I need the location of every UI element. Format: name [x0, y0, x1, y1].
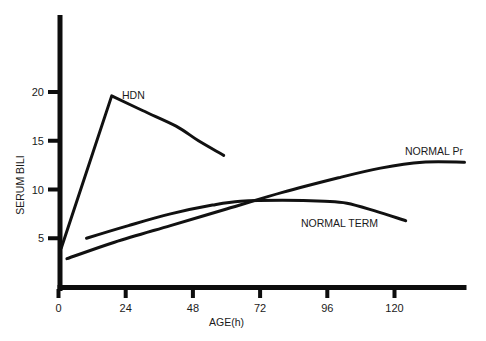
- x-tick-label: 96: [321, 302, 333, 314]
- y-axis-title: SERUM BILI: [14, 155, 26, 215]
- x-ticks: 024487296120: [55, 289, 403, 314]
- x-tick-label: 0: [55, 302, 61, 314]
- x-axis-title: AGE(h): [209, 316, 244, 328]
- x-tick-mark: [191, 289, 195, 298]
- x-tick-mark: [124, 289, 128, 298]
- y-tick-mark: [48, 188, 59, 192]
- x-tick-label: 48: [187, 302, 199, 314]
- series-label-normal-pr: NORMAL Pr: [405, 145, 463, 157]
- y-tick-label: 10: [32, 184, 44, 196]
- y-axis-line: [58, 15, 63, 291]
- x-tick-label: 120: [385, 302, 403, 314]
- series-normal-pr-curve: [67, 162, 465, 259]
- bilirubin-chart: 5101520 024487296120 HDN NORMAL Pr NORMA…: [0, 0, 486, 341]
- series-label-normal-term: NORMAL TERM: [301, 217, 378, 229]
- x-tick-mark: [393, 289, 397, 298]
- x-tick-label: 24: [120, 302, 132, 314]
- series-hdn-curve: [61, 96, 223, 248]
- y-tick-label: 20: [32, 86, 44, 98]
- x-tick-mark: [258, 289, 262, 298]
- x-tick-label: 72: [254, 302, 266, 314]
- x-tick-mark: [325, 289, 329, 298]
- series-label-hdn: HDN: [122, 89, 145, 101]
- y-tick-mark: [48, 139, 59, 143]
- y-tick-mark: [48, 236, 59, 240]
- x-tick-mark: [57, 289, 61, 298]
- y-ticks: 5101520: [32, 86, 59, 244]
- series: [61, 96, 464, 259]
- y-tick-mark: [48, 90, 59, 94]
- y-tick-label: 5: [38, 232, 44, 244]
- y-tick-label: 15: [32, 135, 44, 147]
